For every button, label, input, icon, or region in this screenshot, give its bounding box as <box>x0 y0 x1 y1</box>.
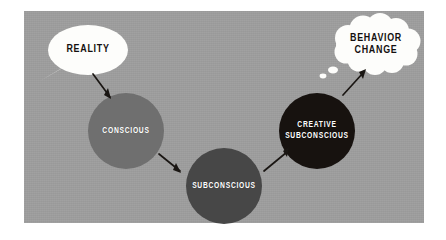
node-conscious-label: CONSCIOUS <box>93 126 159 137</box>
diagram-canvas: REALITY CONSCIOUS SUBCONSCIOUS CREATIVE … <box>0 0 446 240</box>
node-subconscious-label: SUBCONSCIOUS <box>191 181 257 192</box>
edge-conscious-to-subconscious <box>159 154 181 173</box>
thought-dot-medium <box>328 67 338 74</box>
node-creative-subconscious-label: CREATIVE SUBCONSCIOUS <box>284 120 350 141</box>
edge-creative-to-behavior <box>343 69 366 95</box>
edge-subconscious-to-creative <box>264 147 289 171</box>
edge-reality-to-conscious <box>93 74 111 99</box>
thought-dot-small <box>320 74 327 79</box>
node-reality-label: REALITY <box>54 43 121 55</box>
node-behavior-change-label: BEHAVIOR CHANGE <box>342 32 409 55</box>
